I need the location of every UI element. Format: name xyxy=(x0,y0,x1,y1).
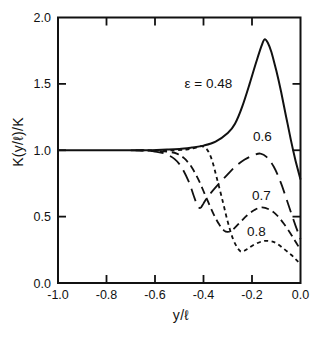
curve-epsilon-0-48 xyxy=(58,39,301,179)
x-tick-label: -0.6 xyxy=(144,288,166,302)
y-tick-label: 0.0 xyxy=(34,277,51,291)
x-tick-label: -0.8 xyxy=(96,288,118,302)
x-tick-label: -0.4 xyxy=(193,288,215,302)
curve-label: 0.8 xyxy=(247,224,266,239)
line-chart: -1.0-0.8-0.6-0.4-0.20.00.00.51.01.52.0ε … xyxy=(0,0,319,338)
curve-label: 0.7 xyxy=(252,188,271,203)
y-tick-label: 0.5 xyxy=(34,210,51,224)
curve-label: ε = 0.48 xyxy=(185,76,233,91)
y-tick-label: 2.0 xyxy=(34,11,51,25)
curve-label: 0.6 xyxy=(253,129,272,144)
curve-epsilon-0-8 xyxy=(140,146,300,264)
curve-epsilon-0-7 xyxy=(136,150,301,250)
x-tick-label: -0.2 xyxy=(241,288,263,302)
x-tick-label: 0.0 xyxy=(292,288,309,302)
chart-figure: -1.0-0.8-0.6-0.4-0.20.00.00.51.01.52.0ε … xyxy=(0,0,319,338)
y-tick-label: 1.0 xyxy=(34,144,51,158)
curve-epsilon-0-6 xyxy=(131,150,301,239)
x-axis-title: y/ℓ xyxy=(146,307,216,323)
y-axis-title: K(y/ℓ)/K xyxy=(10,107,26,177)
y-tick-label: 1.5 xyxy=(34,77,51,91)
